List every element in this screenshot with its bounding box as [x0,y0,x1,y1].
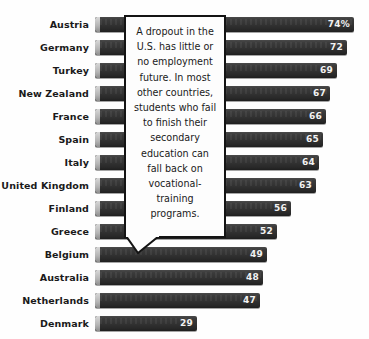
bar-texture [100,249,265,255]
bar-row-label: Netherlands [0,294,89,308]
bar-row-label: United Kingdom [0,179,89,193]
bar-row-label: France [0,110,89,124]
bar-wrapper: 47 [95,293,260,308]
bar-texture [100,272,261,278]
bar-value-label: 67 [313,86,326,101]
bar-wrapper: 49 [95,247,267,262]
bar-value-label: 64 [302,155,315,170]
bar-value-label: 49 [250,247,263,262]
bar: 49 [95,247,267,262]
bar-row-label: Austria [0,18,89,32]
bar-row-label: Turkey [0,64,89,78]
bar-row: Denmark29 [0,316,369,332]
bar-row-label: Denmark [0,317,89,331]
bar: 29 [95,316,197,331]
bar-row: Australia48 [0,270,369,286]
bar-row-label: Italy [0,156,89,170]
bar-wrapper: 48 [95,270,263,285]
bar-value-label: 52 [260,224,273,239]
bar-row-label: Australia [0,271,89,285]
bar-value-label: 56 [274,201,287,216]
bar-texture [100,295,258,301]
bar-row-label: Finland [0,202,89,216]
bar-value-label: 47 [243,293,256,308]
bar-value-label: 63 [299,178,312,193]
bar-row-label: New Zealand [0,87,89,101]
bar-value-label: 74% [328,17,350,32]
bar-value-label: 69 [320,63,333,78]
callout-text: A dropout in the U.S. has little or no e… [126,17,224,222]
bar: 47 [95,293,260,308]
bar-value-label: 66 [309,109,322,124]
bar-row-label: Greece [0,225,89,239]
bar-wrapper: 29 [95,316,197,331]
bar: 48 [95,270,263,285]
bar-value-label: 65 [306,132,319,147]
bar-row-label: Spain [0,133,89,147]
bar-row: Belgium49 [0,247,369,263]
callout-pointer-icon [126,236,162,254]
bar-row: Netherlands47 [0,293,369,309]
bar-value-label: 29 [180,316,193,331]
bar-chart: Austria74%Germany72Turkey69New Zealand67… [0,0,369,339]
bar-row-label: Belgium [0,248,89,262]
bar-value-label: 72 [330,40,343,55]
bar-row-label: Germany [0,41,89,55]
callout-box: A dropout in the U.S. has little or no e… [124,15,226,238]
bar-value-label: 48 [246,270,259,285]
